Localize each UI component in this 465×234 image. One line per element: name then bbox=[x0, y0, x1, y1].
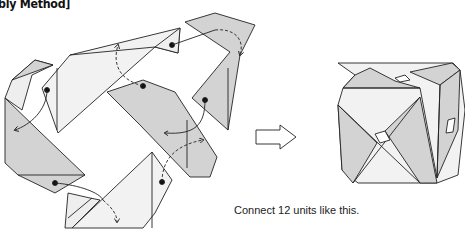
assembly-diagram bbox=[0, 0, 465, 234]
unit-top-right bbox=[185, 13, 255, 130]
assembled-cube bbox=[338, 63, 465, 183]
caption-text: Connect 12 units like this. bbox=[234, 204, 359, 216]
right-arrow-icon bbox=[256, 125, 296, 149]
unit-bottom-white bbox=[65, 152, 172, 228]
